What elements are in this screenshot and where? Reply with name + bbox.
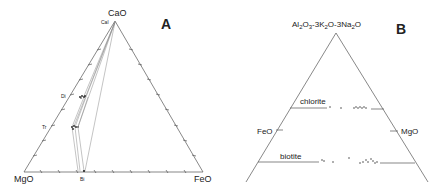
phase-label-bi: Bi [80, 176, 84, 182]
tie-lines-a [72, 22, 115, 171]
phase-label-di: Di [61, 93, 66, 99]
chlorite-label: chlorite [300, 97, 326, 106]
apex-label-cao: CaO [108, 8, 127, 18]
ternary-diagram-a [24, 21, 203, 173]
biotite-label: biotite [280, 152, 302, 161]
figure: CaO Cal Di Tr Bi MgO FeO A Al2O3-3K2O-3N… [0, 0, 440, 192]
feo-label: FeO [257, 127, 273, 136]
apex-label-mgo: MgO [14, 174, 34, 184]
panel-label-a: A [161, 16, 171, 32]
apex-label-al2o3-k2o-na2o: Al2O3-3K2O-3Na2O [292, 20, 361, 30]
data-points-b [321, 106, 377, 163]
right-edge-b [336, 33, 428, 182]
phase-label-cal: Cal [101, 19, 109, 25]
panel-label-b: B [396, 21, 406, 37]
data-points-a [71, 95, 86, 172]
triangle-outline-a [24, 21, 203, 172]
mgo-label: MgO [401, 127, 418, 136]
ternary-diagram-b [246, 33, 428, 182]
phase-label-tr: Tr [42, 124, 47, 130]
bottom-edge-ticks [40, 170, 186, 173]
apex-label-feo: FeO [194, 174, 212, 184]
